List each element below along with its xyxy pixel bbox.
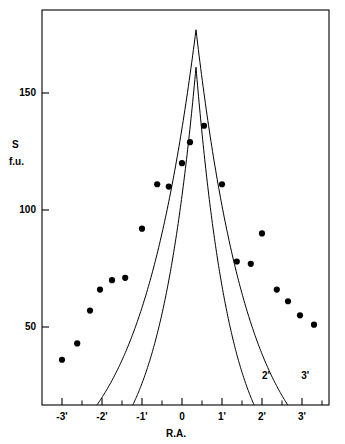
y-axis-title-line2: f.u. [9, 156, 24, 167]
plot-canvas [0, 0, 345, 444]
x-tick-label: 2' [247, 411, 277, 422]
x-tick-label: -1' [127, 411, 157, 422]
data-points [59, 123, 317, 363]
x-tick-label: 0 [167, 411, 197, 422]
y-tick-label: 100 [8, 204, 36, 215]
x-tick-label: -3' [47, 411, 77, 422]
y-axis-ticks [42, 93, 49, 327]
curve-label-3: 3' [301, 370, 309, 381]
axes-frame [42, 10, 329, 405]
x-tick-label: -2' [87, 411, 117, 422]
y-tick-label: 150 [8, 87, 36, 98]
y-tick-label: 50 [8, 321, 36, 332]
x-axis-title: R.A. [166, 428, 186, 439]
curve-label-2: 2' [262, 370, 270, 381]
x-tick-label: 3' [287, 411, 317, 422]
model-curves [60, 30, 322, 444]
y-axis-title-line1: S [12, 139, 19, 150]
figure-container: 50100150 -3'-2'-1'01'2'3' 2'3' S f.u. R.… [0, 0, 345, 444]
x-tick-label: 1' [207, 411, 237, 422]
